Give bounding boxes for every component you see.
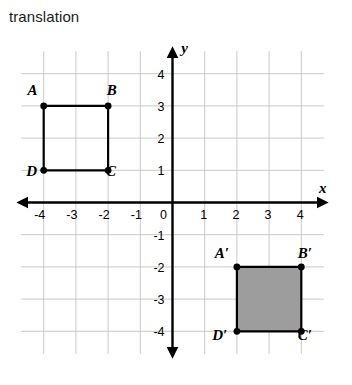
- vertex-label: A′: [214, 245, 229, 261]
- image-square: [237, 267, 301, 331]
- x-tick-label: -4: [34, 208, 45, 222]
- vertex-label: D′: [211, 327, 227, 343]
- vertex-point: [40, 103, 47, 110]
- x-tick-label: -2: [99, 208, 110, 222]
- x-tick-label: 2: [232, 208, 239, 222]
- x-tick-label: -1: [131, 208, 142, 222]
- x-tick-label: -3: [66, 208, 77, 222]
- coordinate-grid-svg: -4-3-2-1012344321-1-2-3-4xy ABCDA′B′C′D′: [0, 34, 352, 385]
- vertex-point: [298, 264, 305, 271]
- vertex-point: [234, 328, 241, 335]
- x-tick-label: 1: [200, 208, 207, 222]
- y-tick-label: -4: [153, 325, 164, 339]
- vertex-point: [40, 167, 47, 174]
- y-tick-label: 1: [158, 164, 165, 178]
- y-tick-label: 2: [158, 132, 165, 146]
- x-tick-label-0: 0: [160, 208, 167, 222]
- vertex-point: [234, 264, 241, 271]
- vertex-label: B: [106, 82, 117, 98]
- vertex-label: B′: [297, 245, 312, 261]
- y-tick-label: 4: [158, 68, 165, 82]
- y-tick-label: -3: [153, 293, 164, 307]
- y-axis-label: y: [179, 40, 188, 56]
- y-tick-label: -1: [153, 229, 164, 243]
- y-tick-label: -2: [153, 261, 164, 275]
- vertex-point: [105, 103, 112, 110]
- x-tick-label: 4: [297, 208, 304, 222]
- vertex-label: C′: [298, 327, 312, 343]
- coordinate-plane-figure: -4-3-2-1012344321-1-2-3-4xy ABCDA′B′C′D′: [0, 34, 352, 385]
- x-tick-label: 3: [265, 208, 272, 222]
- vertex-label: D: [25, 163, 37, 179]
- vertex-label: A: [27, 82, 38, 98]
- x-axis-label: x: [318, 180, 327, 196]
- y-tick-label: 3: [158, 100, 165, 114]
- vertex-label: C: [106, 163, 117, 179]
- page-title: translation: [9, 8, 79, 25]
